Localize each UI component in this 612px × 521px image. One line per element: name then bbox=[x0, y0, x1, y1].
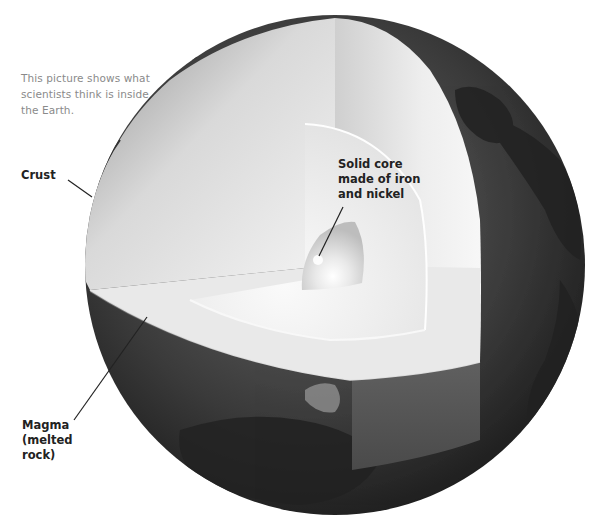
intro-caption: This picture shows what scientists think… bbox=[21, 70, 161, 118]
mantle-left-face bbox=[80, 18, 335, 290]
label-crust: Crust bbox=[21, 168, 56, 183]
label-solid-core: Solid core made of iron and nickel bbox=[338, 157, 428, 202]
crust-leader-line bbox=[68, 180, 92, 197]
label-magma: Magma (melted rock) bbox=[22, 418, 82, 463]
earth-diagram: This picture shows what scientists think… bbox=[0, 0, 612, 521]
